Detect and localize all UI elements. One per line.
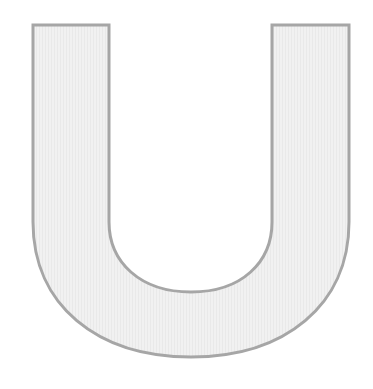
- letter-u-shape: [33, 25, 349, 357]
- letter-u-icon: [0, 0, 373, 389]
